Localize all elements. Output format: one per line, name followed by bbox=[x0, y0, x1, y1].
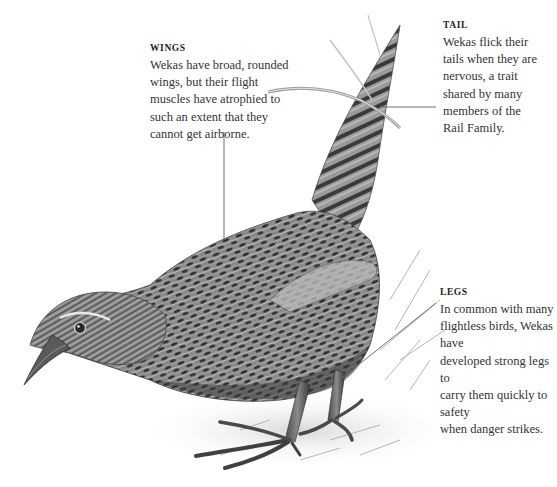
tail-description: Wekas flick their tails when they are ne… bbox=[443, 34, 553, 137]
tail-callout: TAIL Wekas flick their tails when they a… bbox=[443, 19, 553, 137]
legs-title: LEGS bbox=[440, 286, 557, 299]
wings-callout: WINGS Wekas have broad, rounded wings, b… bbox=[150, 42, 330, 143]
eye bbox=[75, 323, 86, 334]
legs-callout: LEGS In common with many flightless bird… bbox=[440, 286, 557, 439]
legs-description: In common with many flightless birds, We… bbox=[440, 301, 557, 439]
wings-description: Wekas have broad, rounded wings, but the… bbox=[150, 57, 330, 143]
weka-anatomy-diagram: WINGS Wekas have broad, rounded wings, b… bbox=[0, 0, 557, 487]
tail-title: TAIL bbox=[443, 19, 553, 32]
wings-title: WINGS bbox=[150, 42, 330, 55]
